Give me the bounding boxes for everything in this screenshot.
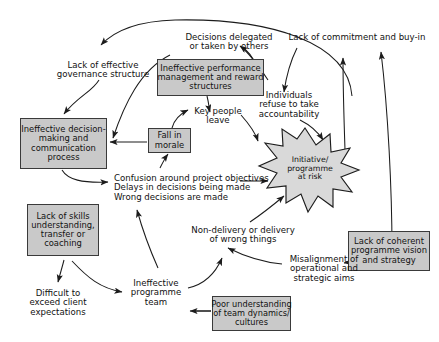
node-difficult-exceed-client: Difficult to exceed client expectations (22, 284, 94, 322)
node-lack-commitment-buyin: Lack of commitment and buy-in (282, 31, 432, 45)
node-layer: Lack of effective governance structure D… (0, 0, 439, 342)
node-confusion-delays-wrong-decisions: Confusion around project objectives Dela… (114, 170, 274, 206)
text-line: expectations (30, 308, 85, 317)
node-initiative-programme-at-risk: Initiative/ programme at risk (283, 153, 337, 185)
text-line: accountability (259, 110, 320, 119)
node-poor-understanding-team-dynamics: Poor understanding of team dynamics/ cul… (212, 296, 291, 331)
node-key-people-leave: Key people leave (190, 103, 246, 129)
text-line: process (47, 153, 79, 162)
text-line: or taken by others (190, 42, 269, 51)
node-fall-in-morale: Fall in morale (148, 128, 191, 153)
text-line: Lack of commitment and buy-in (289, 33, 426, 42)
node-ineffective-programme-team: Ineffective programme team (122, 274, 190, 312)
text-line: team (145, 298, 167, 307)
text-line: morale (155, 141, 184, 150)
text-line: and strategy (362, 256, 415, 265)
text-line: at risk (298, 173, 322, 181)
node-non-delivery: Non-delivery or delivery of wrong things (188, 222, 298, 248)
text-line: governance structure (57, 70, 149, 79)
node-lack-effective-governance: Lack of effective governance structure (48, 56, 158, 84)
node-individuals-refuse-accountability: Individuals refuse to take accountabilit… (256, 86, 322, 124)
text-line: strategic aims (293, 274, 354, 283)
node-misalignment-aims: Misalignment of operational and strategi… (282, 250, 366, 288)
node-ineffective-performance-management: Ineffective performance management and r… (157, 59, 264, 96)
text-line: leave (206, 116, 229, 125)
text-line: Wrong decisions are made (114, 193, 228, 202)
node-lack-of-skills: Lack of skills understanding, transfer o… (27, 204, 99, 256)
node-decisions-delegated: Decisions delegated or taken by others (170, 28, 288, 56)
text-line: cultures (235, 318, 268, 327)
text-line: structures (189, 82, 231, 91)
diagram-canvas: Lack of effective governance structure D… (0, 0, 439, 342)
node-ineffective-decision-making: Ineffective decision- making and communi… (20, 118, 107, 169)
text-line: of wrong things (210, 235, 277, 244)
text-line: coaching (44, 239, 82, 248)
